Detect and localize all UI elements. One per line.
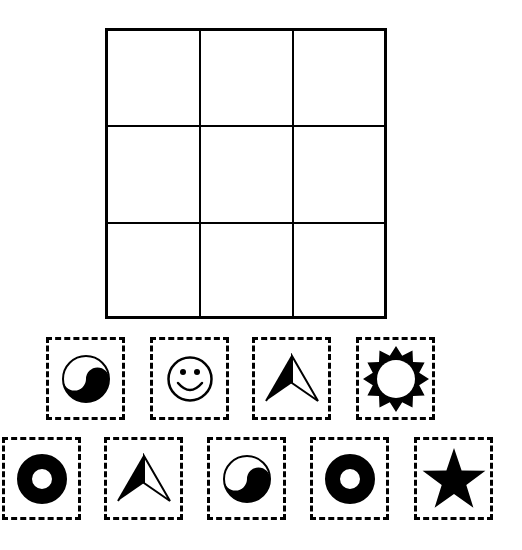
sun-icon — [361, 344, 431, 414]
tile-ring[interactable]: ring — [2, 437, 81, 520]
board-cell-r3c2[interactable] — [201, 224, 294, 316]
arrowhead-icon — [263, 353, 321, 405]
puzzle-board — [105, 28, 387, 319]
tile-yin-yang[interactable]: yin-yang — [207, 437, 286, 520]
yin-yang-icon — [222, 454, 272, 504]
board-cell-r2c3[interactable] — [294, 127, 384, 224]
tile-ring[interactable]: ring — [310, 437, 389, 520]
board-cell-r1c2[interactable] — [201, 31, 294, 127]
star-icon — [419, 444, 489, 514]
board-cell-r1c3[interactable] — [294, 31, 384, 127]
ring-icon — [16, 453, 68, 505]
ring-icon — [324, 453, 376, 505]
tile-star[interactable]: star — [414, 437, 493, 520]
smiley-icon — [165, 354, 215, 404]
board-cell-r2c1[interactable] — [108, 127, 201, 224]
tile-sun[interactable]: sun — [356, 337, 435, 420]
tile-arrowhead[interactable]: arrowhead — [104, 437, 183, 520]
tile-arrowhead[interactable]: arrowhead — [252, 337, 331, 420]
board-cell-r2c2[interactable] — [201, 127, 294, 224]
board-cell-r3c3[interactable] — [294, 224, 384, 316]
tile-smiley[interactable]: smiley face — [150, 337, 229, 420]
board-cell-r3c1[interactable] — [108, 224, 201, 316]
board-cell-r1c1[interactable] — [108, 31, 201, 127]
yin-yang-icon — [61, 354, 111, 404]
arrowhead-icon — [115, 453, 173, 505]
tile-yin-yang[interactable]: yin-yang — [46, 337, 125, 420]
